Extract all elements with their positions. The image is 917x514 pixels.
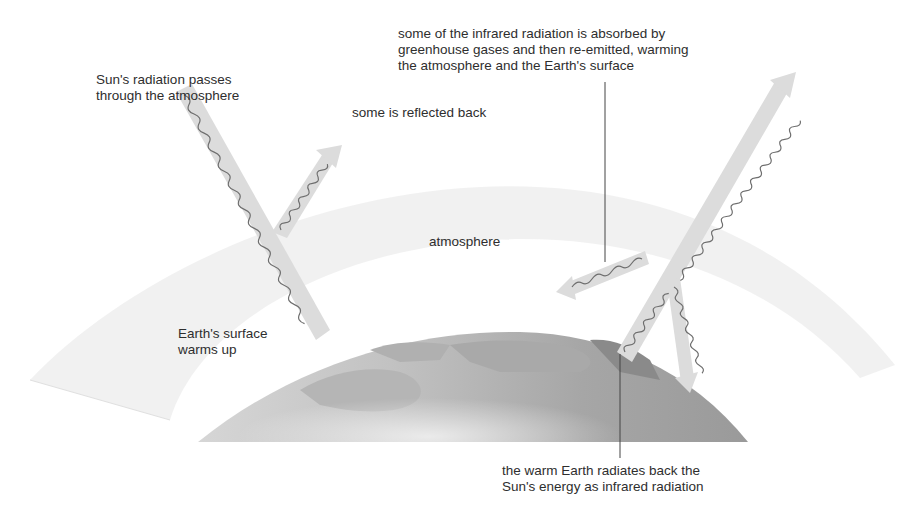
label-line: warms up xyxy=(178,342,268,358)
label-line: some of the infrared radiation is absorb… xyxy=(398,26,688,42)
label-reflected: some is reflected back xyxy=(352,105,486,121)
label-line: greenhouse gases and then re-emitted, wa… xyxy=(398,42,688,58)
label-line: some is reflected back xyxy=(352,105,486,121)
label-line: Sun's energy as infrared radiation xyxy=(502,479,703,495)
label-earth-radiates: the warm Earth radiates back the Sun's e… xyxy=(502,463,703,495)
earth-globe xyxy=(198,332,748,442)
label-line: Earth's surface xyxy=(178,326,268,342)
label-absorbed: some of the infrared radiation is absorb… xyxy=(398,26,688,74)
label-line: Sun's radiation passes xyxy=(96,72,239,88)
label-line: atmosphere xyxy=(429,234,500,250)
greenhouse-diagram: Sun's radiation passes through the atmos… xyxy=(0,0,917,514)
label-atmosphere: atmosphere xyxy=(429,234,500,250)
label-line: through the atmosphere xyxy=(96,88,239,104)
label-line: the atmosphere and the Earth's surface xyxy=(398,58,688,74)
label-surface-warms: Earth's surface warms up xyxy=(178,326,268,358)
arrow-re-emitted-sideways xyxy=(556,251,649,300)
label-line: the warm Earth radiates back the xyxy=(502,463,703,479)
label-sun-radiation: Sun's radiation passes through the atmos… xyxy=(96,72,239,104)
